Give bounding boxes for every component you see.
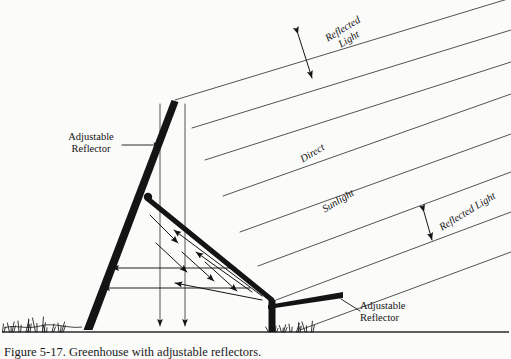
sun-ray-6: [276, 212, 511, 300]
low-adjustable-reflector[interactable]: [268, 292, 343, 309]
grass-group: [0, 317, 314, 332]
label-adjustable-reflector-top: AdjustableReflector: [60, 131, 122, 156]
figure-caption: Figure 5-17. Greenhouse with adjustable …: [4, 345, 261, 359]
reflected-arrow-group-up: [174, 230, 262, 300]
leader-line-bottom: [341, 299, 360, 311]
grass-tuft-left: [0, 317, 65, 332]
reflector-diagram-svg: [0, 0, 511, 359]
pivot-joint[interactable]: [144, 193, 152, 201]
sun-ray-3: [223, 94, 511, 196]
dimension-arrow-top: [298, 34, 312, 78]
reflected-arrow-group-down: [150, 215, 237, 291]
sun-ray-5: [258, 172, 511, 266]
leader-line-group: [122, 145, 360, 311]
support-strut: [148, 199, 272, 300]
dimension-arrow-right: [424, 212, 432, 240]
figure-diagram: AdjustableReflector AdjustableReflector …: [0, 0, 511, 359]
label-adjustable-reflector-bottom: AdjustableReflector: [360, 300, 430, 325]
reflected-arrow-up-1: [174, 230, 262, 296]
reflected-arrow-up-0: [175, 283, 262, 300]
